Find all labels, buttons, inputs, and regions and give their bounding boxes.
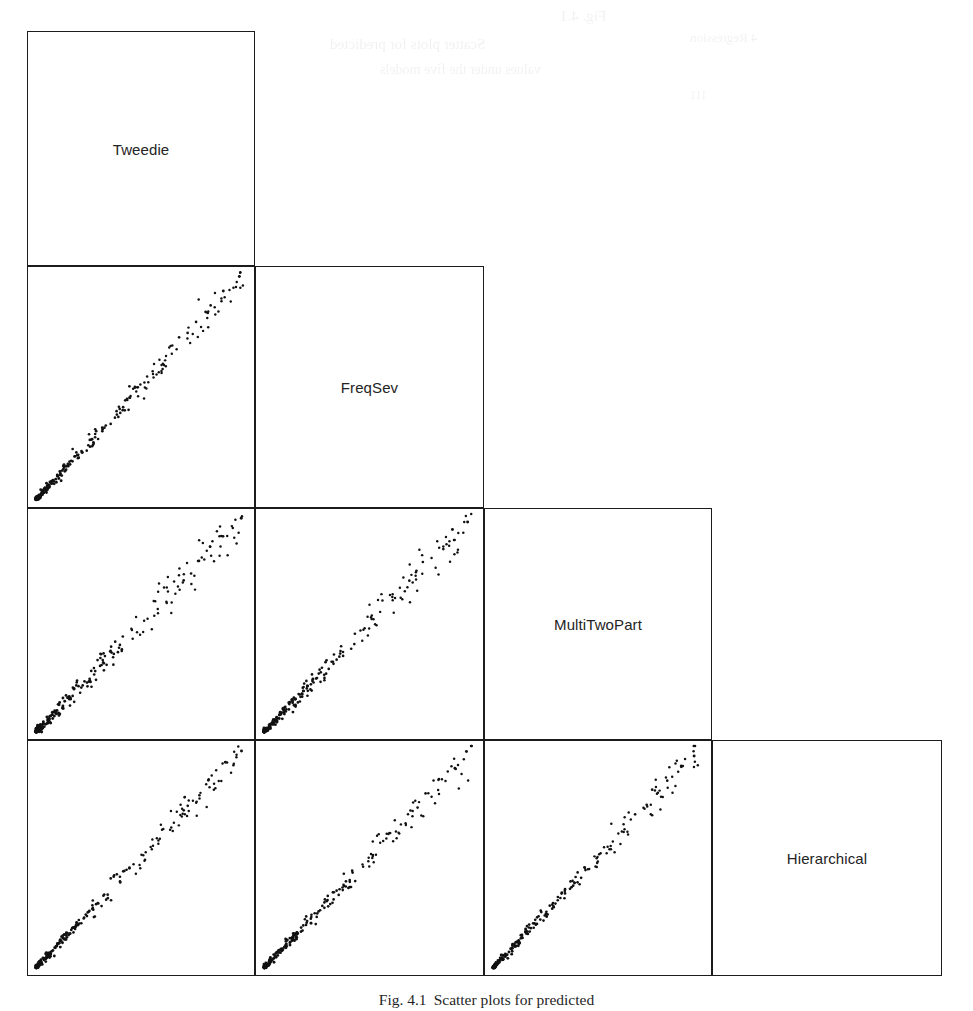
matrix-diagonal-panel-multitwopart: MultiTwoPart — [484, 508, 712, 740]
scatter-points — [485, 741, 711, 975]
scatter-points — [28, 267, 254, 507]
variable-label: Tweedie — [28, 140, 254, 157]
matrix-scatter-panel — [27, 508, 255, 740]
matrix-scatter-panel — [27, 266, 255, 508]
matrix-scatter-panel — [255, 740, 484, 976]
matrix-diagonal-panel-hierarchical: Hierarchical — [712, 740, 942, 976]
scatter-points — [28, 741, 254, 975]
matrix-diagonal-panel-freqsev: FreqSev — [255, 266, 484, 508]
scatter-points — [256, 741, 483, 975]
caption-text: Scatter plots for predicted — [434, 991, 595, 1008]
caption-number: Fig. 4.1 — [379, 991, 427, 1008]
figure-scatterplot-matrix: TweedieFreqSevMultiTwoPartHierarchical — [0, 0, 973, 1011]
variable-label: Hierarchical — [713, 850, 941, 867]
matrix-scatter-panel — [484, 740, 712, 976]
scatterplot-matrix-grid: TweedieFreqSevMultiTwoPartHierarchical — [27, 31, 942, 976]
variable-label: MultiTwoPart — [485, 616, 711, 633]
scatter-points — [28, 509, 254, 739]
matrix-scatter-panel — [255, 508, 484, 740]
scatter-points — [256, 509, 483, 739]
matrix-scatter-panel — [27, 740, 255, 976]
matrix-diagonal-panel-tweedie: Tweedie — [27, 31, 255, 266]
figure-caption: Fig. 4.1Scatter plots for predicted — [0, 989, 973, 1011]
variable-label: FreqSev — [256, 379, 483, 396]
